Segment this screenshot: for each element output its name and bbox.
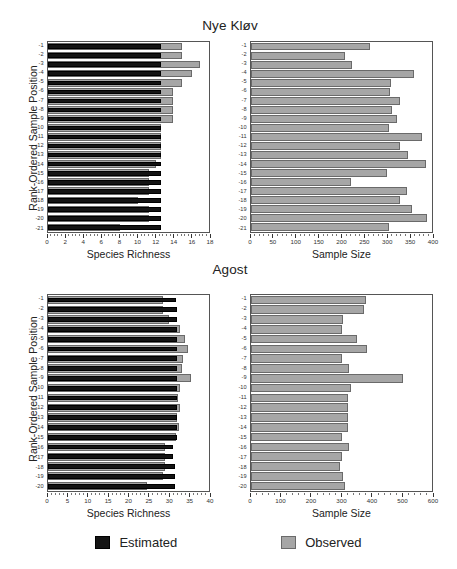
legend-label-observed: Observed <box>305 535 361 550</box>
x-tick-minor <box>419 234 420 236</box>
y-tick-label: -9 <box>24 373 46 383</box>
bar-estimated <box>48 153 161 158</box>
bar-row <box>251 315 432 325</box>
x-tick-minor <box>329 493 330 495</box>
x-tick-minor <box>373 234 374 236</box>
y-tick-label: -15 <box>227 169 249 178</box>
x-tick-label: 8 <box>118 238 121 245</box>
x-tick-minor <box>71 493 72 495</box>
x-tick-label: 600 <box>428 497 438 504</box>
legend-item-observed: Observed <box>281 535 361 550</box>
bar-row <box>251 169 432 178</box>
y-tick-label: -2 <box>24 50 46 59</box>
x-tick-minor <box>304 234 305 236</box>
bar-estimated <box>48 415 177 420</box>
x-tick-minor <box>426 493 427 495</box>
bar-estimated <box>48 81 161 86</box>
x-tick-label: 40 <box>207 497 214 504</box>
bar-estimated <box>48 62 161 67</box>
x-tick-minor <box>396 493 397 495</box>
y-tick-label: -20 <box>227 482 249 492</box>
x-tick-minor <box>63 493 64 495</box>
x-tick-minor <box>390 493 391 495</box>
bar-row <box>251 324 432 334</box>
x-tick-minor <box>353 493 354 495</box>
x-tick-minor <box>133 234 134 236</box>
x-tick-minor <box>193 493 194 495</box>
bar-estimated <box>48 180 161 185</box>
bar-row <box>251 481 432 491</box>
x-tick-minor <box>365 493 366 495</box>
y-tick-label: -14 <box>24 423 46 433</box>
bar-estimated <box>48 386 177 391</box>
y-tick-label: -17 <box>227 453 249 463</box>
x-tick-minor <box>177 234 178 236</box>
y-tick-label: -17 <box>227 187 249 196</box>
bar-row <box>251 196 432 205</box>
y-tick-label: -7 <box>24 353 46 363</box>
x-tick-minor <box>144 234 145 236</box>
y-tick-label: -20 <box>24 215 46 224</box>
bar-row <box>48 151 209 160</box>
x-tick-minor <box>274 493 275 495</box>
x-tick-minor <box>286 493 287 495</box>
bar-observed <box>251 472 343 481</box>
x-tick-label: 500 <box>397 497 407 504</box>
bar-row <box>48 69 209 78</box>
bar-estimated <box>48 44 161 49</box>
plot-nye-klov-species-richness <box>47 41 210 233</box>
y-tick-label: -5 <box>24 334 46 344</box>
x-tick-label: 200 <box>336 238 346 245</box>
bar-observed <box>251 452 342 461</box>
x-tick-minor <box>378 493 379 495</box>
y-tick-label: -20 <box>24 482 46 492</box>
bar-observed <box>251 443 349 452</box>
y-axis-labels-top-left: -1-2-3-4-5-6-7-8-9-10-11-12-13-14-15-16-… <box>24 41 46 233</box>
bar-observed <box>251 482 345 491</box>
x-tick-minor <box>59 493 60 495</box>
x-tick-minor <box>263 234 264 236</box>
bar-row <box>251 78 432 87</box>
y-tick-label: -21 <box>227 224 249 233</box>
x-tick-minor <box>268 493 269 495</box>
bar-observed <box>251 315 343 324</box>
x-tick-minor <box>108 234 109 236</box>
y-tick-label: -11 <box>227 132 249 141</box>
bar-observed <box>251 61 352 69</box>
bar-row <box>251 60 432 69</box>
x-tick-minor <box>332 234 333 236</box>
bar-row <box>48 114 209 123</box>
bar-observed <box>251 115 397 123</box>
bar-row <box>48 442 209 452</box>
y-tick-label: -19 <box>227 472 249 482</box>
x-tick-minor <box>277 234 278 236</box>
bar-estimated <box>48 484 175 489</box>
bar-observed <box>251 214 427 222</box>
y-tick-label: -3 <box>227 59 249 68</box>
bar-row <box>251 114 432 123</box>
x-axis-title-bottom-left: Species Richness <box>47 507 210 519</box>
x-tick-label: 0 <box>248 497 251 504</box>
x-tick-minor <box>170 234 171 236</box>
x-tick-minor <box>144 493 145 495</box>
x-tick-minor <box>400 234 401 236</box>
bar-row <box>48 214 209 223</box>
bar-row <box>48 334 209 344</box>
y-tick-label: -14 <box>227 160 249 169</box>
bar-observed <box>251 223 389 231</box>
bar-row <box>48 373 209 383</box>
x-tick-label: 0 <box>45 238 48 245</box>
x-tick-label: 300 <box>382 238 392 245</box>
bar-row <box>251 69 432 78</box>
x-tick-minor <box>50 234 51 236</box>
y-tick-label: -4 <box>24 324 46 334</box>
bar-estimated <box>48 117 161 122</box>
y-tick-label: -3 <box>24 314 46 324</box>
y-tick-label: -7 <box>227 353 249 363</box>
bar-row <box>251 160 432 169</box>
bar-observed <box>251 52 345 60</box>
x-tick-minor <box>157 493 158 495</box>
x-tick-minor <box>72 234 73 236</box>
x-tick-minor <box>99 493 100 495</box>
x-tick-minor <box>55 493 56 495</box>
